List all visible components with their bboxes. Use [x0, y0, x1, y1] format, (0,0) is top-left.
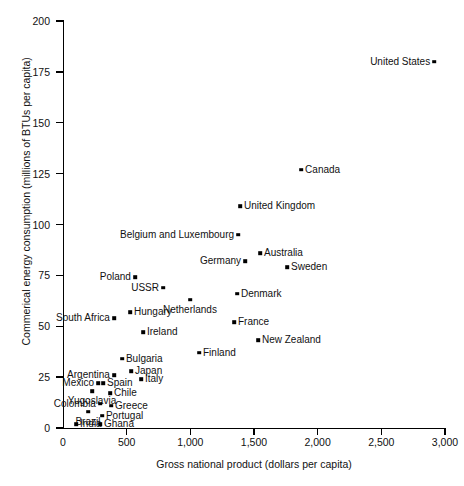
x-tick [317, 428, 318, 435]
data-point [235, 292, 239, 296]
data-point-label: France [238, 317, 269, 327]
y-axis-title: Commerical energy consumption (millions … [21, 86, 32, 346]
data-point [258, 251, 262, 255]
data-point-label: Canada [305, 165, 340, 175]
data-point [236, 233, 240, 237]
y-tick [56, 173, 64, 174]
x-tick [253, 428, 254, 435]
data-point-label: Germany [200, 256, 241, 266]
data-point [74, 422, 78, 426]
scatter-plot: 0255075100125150175200 05001,0001,5002,0… [0, 0, 464, 486]
x-axis-title: Gross national product (dollars per capi… [63, 459, 445, 470]
data-point [86, 410, 90, 414]
data-point-label: Bulgaria [126, 354, 163, 364]
data-point [256, 339, 260, 343]
y-tick [56, 71, 64, 72]
y-tick-label-text: 125 [32, 169, 50, 180]
data-point-label: USSR [131, 283, 159, 293]
data-point-label: Belgium and Luxembourg [120, 230, 234, 240]
x-tick-label: 1,500 [241, 437, 267, 448]
data-point-label: Italy [145, 374, 163, 384]
y-tick-label-text: 50 [38, 321, 50, 332]
y-tick [56, 224, 64, 225]
data-point-label: Finland [203, 348, 236, 358]
x-tick [190, 428, 191, 435]
x-tick-label: 2,000 [305, 437, 331, 448]
y-tick [56, 275, 64, 276]
y-tick-label-text: 0 [44, 423, 50, 434]
data-point [197, 351, 201, 355]
y-tick [56, 326, 64, 327]
data-point [299, 168, 303, 172]
data-point [128, 310, 132, 314]
data-point-label: Chile [114, 388, 137, 398]
data-point [90, 390, 94, 394]
data-point [139, 377, 143, 381]
y-tick-label-text: 75 [38, 270, 50, 281]
data-point-label: Australia [264, 248, 303, 258]
data-point-label: Hungary [134, 307, 172, 317]
data-point [232, 320, 236, 324]
data-point [188, 298, 192, 302]
y-tick-label-text: 150 [32, 118, 50, 129]
data-point [238, 204, 242, 208]
x-tick-label: 500 [118, 437, 136, 448]
x-tick-label: 3,000 [432, 437, 458, 448]
y-tick-label-text: 25 [38, 372, 50, 383]
data-point-label: South Africa [56, 313, 110, 323]
data-point-label: Denmark [241, 289, 282, 299]
data-point [109, 404, 113, 408]
data-point-label: United States [370, 57, 430, 67]
y-tick [56, 20, 64, 21]
data-point-label: Poland [100, 272, 131, 282]
data-point [141, 331, 145, 335]
x-tick-label: 1,000 [177, 437, 203, 448]
y-tick [56, 122, 64, 123]
x-tick [444, 428, 445, 435]
y-tick-label-text: 100 [32, 220, 50, 231]
data-point [120, 357, 124, 361]
data-point [243, 259, 247, 263]
data-point [432, 60, 436, 64]
data-point-label: United Kingdom [244, 201, 315, 211]
data-point [285, 265, 289, 269]
y-tick [56, 427, 64, 428]
y-tick-label-text: 175 [32, 67, 50, 78]
data-point-label: Ghana [104, 419, 134, 429]
data-point [101, 381, 105, 385]
x-tick-label: 0 [60, 437, 66, 448]
data-point-label: Sweden [291, 262, 327, 272]
y-tick-label-text: 200 [32, 16, 50, 27]
data-point-label: Colombia [54, 399, 96, 409]
data-point [161, 286, 165, 290]
data-point-label: Mexico [62, 378, 94, 388]
data-point [98, 402, 102, 406]
data-point-label: Ireland [147, 327, 178, 337]
data-point [98, 422, 102, 426]
data-point [133, 276, 137, 280]
x-tick [381, 428, 382, 435]
x-tick [126, 428, 127, 435]
data-point [96, 381, 100, 385]
data-point [108, 392, 112, 396]
data-point [112, 316, 116, 320]
data-point-label: New Zealand [262, 335, 321, 345]
data-point [129, 369, 133, 373]
x-tick-label: 2,500 [368, 437, 394, 448]
